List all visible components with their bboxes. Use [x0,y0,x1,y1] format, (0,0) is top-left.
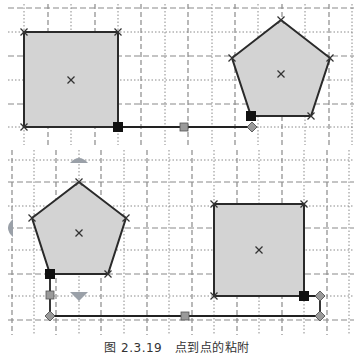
connector-midpoint-handle-icon[interactable] [46,291,54,299]
connector-midpoint-handle-icon[interactable] [181,312,189,320]
connector-midpoint-handle-icon[interactable] [180,123,188,131]
connector-end-diamond-icon[interactable] [247,122,257,132]
figure-caption: 图 2.3.19 点到点的粘附 [0,338,354,355]
top-square-shape[interactable] [21,29,122,131]
bottom-pentagon-shape[interactable] [29,179,130,278]
arrow-up-hint-icon[interactable] [70,158,88,163]
connector-start-endpoint-icon[interactable] [113,122,123,132]
bottom-square-shape[interactable] [211,201,308,300]
connector-end-endpoint-icon[interactable] [299,291,309,301]
diagram-canvas [0,0,354,355]
connector-start-endpoint-icon[interactable] [45,269,55,279]
connector-corner-diamond-icon[interactable] [315,291,325,301]
arrow-left-hint-icon[interactable] [8,219,13,237]
snap-point-marker-icon [246,111,256,121]
